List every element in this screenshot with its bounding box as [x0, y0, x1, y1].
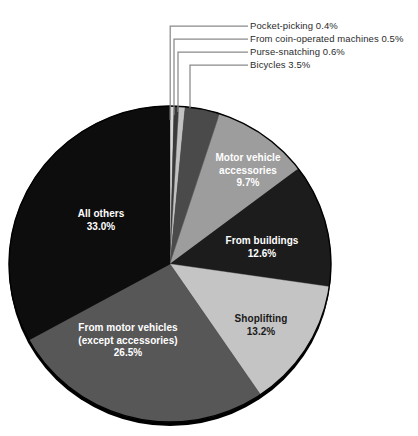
slice-label-value: 13.2% — [213, 326, 309, 339]
slice-label-line: Shoplifting — [213, 313, 309, 326]
leader-line-coin-operated — [174, 39, 248, 115]
callout-label-bicycles: Bicycles 3.5% — [250, 59, 310, 70]
slice-label-value: 12.6% — [207, 248, 317, 261]
leader-line-purse-snatching — [178, 52, 248, 112]
slice-label-line: From buildings — [207, 235, 317, 248]
slice-label-value: 33.0% — [48, 221, 154, 234]
slice-label-motor-vehicle-accessories: Motor vehicle accessories 9.7% — [195, 152, 301, 190]
slice-label-value: 26.5% — [58, 347, 198, 360]
callout-label-coin-operated-machines: From coin-operated machines 0.5% — [250, 33, 404, 44]
slice-label-line: (except accessories) — [58, 335, 198, 348]
slice-label-shoplifting: Shoplifting 13.2% — [213, 313, 309, 338]
slice-label-from-buildings: From buildings 12.6% — [207, 235, 317, 260]
pie-chart-figure: Pocket-picking 0.4% From coin-operated m… — [0, 0, 418, 436]
slice-label-all-others: All others 33.0% — [48, 208, 154, 233]
slice-label-value: 9.7% — [195, 177, 301, 190]
callout-label-pocket-picking: Pocket-picking 0.4% — [250, 20, 338, 31]
slice-label-line: Motor vehicle — [195, 152, 301, 165]
leader-line-bicycles — [190, 65, 248, 108]
callout-label-purse-snatching: Purse-snatching 0.6% — [250, 46, 345, 57]
slice-label-from-motor-vehicles: From motor vehicles (except accessories)… — [58, 322, 198, 360]
slice-label-line: All others — [48, 208, 154, 221]
slice-label-line: accessories — [195, 165, 301, 178]
slice-label-line: From motor vehicles — [58, 322, 198, 335]
